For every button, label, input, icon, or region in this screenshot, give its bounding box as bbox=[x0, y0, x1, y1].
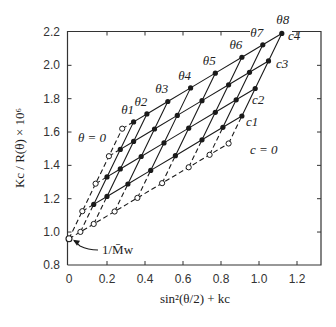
measured-point bbox=[199, 98, 204, 103]
y-tick-label: 2.2 bbox=[43, 25, 60, 39]
measured-point bbox=[266, 58, 271, 63]
intercept-point bbox=[66, 236, 72, 242]
measured-point bbox=[144, 111, 149, 116]
extrapolated-point bbox=[186, 165, 191, 170]
measured-point bbox=[131, 119, 136, 124]
x-tick-label: 1.2 bbox=[289, 272, 306, 286]
extrapolated-point bbox=[120, 126, 125, 131]
x-axis-label: sin²(θ/2) + kc bbox=[160, 291, 230, 306]
measured-point bbox=[125, 181, 130, 186]
theta-label: θ4 bbox=[178, 68, 191, 83]
intercept-label: 1/M̄w bbox=[102, 242, 134, 257]
measured-point bbox=[226, 82, 231, 87]
extrapolated-point bbox=[80, 209, 85, 214]
measured-point bbox=[199, 137, 204, 142]
theta-label: θ = 0 bbox=[78, 130, 107, 145]
concentration-label: c1 bbox=[246, 114, 258, 129]
theta-label: θ5 bbox=[203, 53, 216, 68]
measured-point bbox=[279, 31, 284, 36]
measured-point bbox=[253, 86, 258, 91]
y-tick-label: 1.2 bbox=[43, 192, 60, 206]
measured-point bbox=[213, 110, 218, 115]
y-tick-label: 1.4 bbox=[43, 158, 60, 172]
measured-point bbox=[186, 126, 191, 131]
y-tick-label: 1.6 bbox=[43, 125, 60, 139]
y-axis-label: Kc / R(θ) × 10⁶ bbox=[12, 108, 27, 188]
x-tick-label: 1.0 bbox=[251, 272, 268, 286]
measured-point bbox=[188, 85, 193, 90]
concentration-label: c4 bbox=[288, 28, 301, 43]
concentration-label: c2 bbox=[252, 92, 265, 107]
series-labels: θ = 0θ1θ2θ3θ4θ5θ6θ7θ8c = 0c1c2c3c41/M̄w bbox=[73, 12, 301, 257]
theta-label: θ7 bbox=[250, 25, 263, 40]
extrapolated-point bbox=[91, 221, 96, 226]
zimm-plot: 00.20.40.60.81.01.2 0.81.01.21.41.61.82.… bbox=[0, 0, 336, 327]
extrapolated-point bbox=[160, 181, 165, 186]
extrapolated-point bbox=[112, 209, 117, 214]
measured-point bbox=[239, 55, 244, 60]
measured-point bbox=[260, 42, 265, 47]
x-tick-label: 0.8 bbox=[213, 272, 230, 286]
concentration-label: c3 bbox=[276, 56, 289, 71]
y-tick-label: 1.8 bbox=[43, 92, 60, 106]
measured-point bbox=[139, 154, 144, 159]
measured-point bbox=[234, 97, 239, 102]
measured-point bbox=[104, 174, 109, 179]
y-tick-label: 1.0 bbox=[43, 225, 60, 239]
extrapolated-point bbox=[135, 195, 140, 200]
measured-point bbox=[175, 113, 180, 118]
theta-label: θ2 bbox=[134, 94, 147, 109]
theta-label: θ6 bbox=[229, 37, 242, 52]
concentration-label: c = 0 bbox=[250, 142, 278, 157]
measured-point bbox=[247, 70, 252, 75]
measured-point bbox=[165, 99, 170, 104]
measured-point bbox=[239, 113, 244, 118]
theta-label: θ3 bbox=[155, 81, 168, 96]
measured-point bbox=[91, 202, 96, 207]
extrapolated-point bbox=[207, 152, 212, 157]
theta-label: θ8 bbox=[276, 12, 289, 27]
extrapolated-point bbox=[93, 181, 98, 186]
x-tick-label: 0.6 bbox=[175, 272, 192, 286]
measured-point bbox=[118, 166, 123, 171]
measured-point bbox=[220, 125, 225, 130]
measured-point bbox=[148, 168, 153, 173]
extrapolated-point bbox=[106, 154, 111, 159]
measured-point bbox=[104, 194, 109, 199]
x-tick-label: 0.4 bbox=[137, 272, 154, 286]
measured-point bbox=[173, 153, 178, 158]
y-tick-label: 2.0 bbox=[43, 58, 60, 72]
x-tick-label: 0 bbox=[66, 272, 73, 286]
measured-point bbox=[213, 71, 218, 76]
y-tick-label: 0.8 bbox=[43, 258, 60, 272]
measured-point bbox=[118, 147, 123, 152]
extrapolated-point bbox=[78, 229, 83, 234]
x-tick-label: 0.2 bbox=[99, 272, 116, 286]
measured-point bbox=[152, 126, 157, 131]
extrapolated-point bbox=[226, 141, 231, 146]
measured-point bbox=[131, 139, 136, 144]
theta-label: θ1 bbox=[121, 102, 134, 117]
measured-point bbox=[161, 140, 166, 145]
